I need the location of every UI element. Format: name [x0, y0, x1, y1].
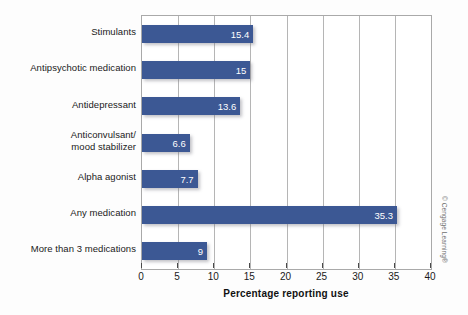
category-label-line: Antidepressant [0, 99, 136, 111]
x-tick-label: 15 [244, 271, 255, 282]
x-tick-mark [213, 263, 214, 268]
category-label: Anticonvulsant/mood stabilizer [0, 129, 136, 152]
category-label: Antidepressant [0, 99, 136, 111]
x-tick-mark [286, 263, 287, 268]
x-axis-title: Percentage reporting use [141, 288, 431, 299]
bar: 35.3 [142, 206, 397, 224]
category-label: Stimulants [0, 26, 136, 38]
bar-value-label: 35.3 [375, 209, 394, 220]
category-label: Alpha agonist [0, 171, 136, 183]
category-label-line: More than 3 medications [0, 243, 136, 255]
x-tick-label: 10 [208, 271, 219, 282]
bar: 15.4 [142, 25, 253, 43]
bar-series: 15.41513.66.67.735.39 [142, 16, 431, 269]
bar-value-label: 9 [198, 245, 203, 256]
category-label-line: Antipsychotic medication [0, 62, 136, 74]
bar-value-label: 7.7 [180, 173, 193, 184]
x-tick-label: 5 [174, 271, 180, 282]
category-label: More than 3 medications [0, 243, 136, 255]
x-tick-label: 0 [138, 271, 144, 282]
category-labels: StimulantsAntipsychotic medicationAntide… [0, 14, 136, 269]
x-tick-mark [394, 263, 395, 268]
bar-value-label: 15.4 [231, 29, 250, 40]
bar: 9 [142, 242, 207, 260]
x-tick-mark [358, 263, 359, 268]
bar: 7.7 [142, 170, 198, 188]
bar-value-label: 13.6 [218, 101, 237, 112]
x-tick-mark [249, 263, 250, 268]
category-label-line: Stimulants [0, 26, 136, 38]
bar-value-label: 6.6 [172, 137, 185, 148]
plot-area: 15.41513.66.67.735.39 [141, 15, 432, 270]
bar: 6.6 [142, 134, 190, 152]
category-label: Any medication [0, 207, 136, 219]
bar: 15 [142, 61, 250, 79]
x-tick-label: 35 [388, 271, 399, 282]
category-label-line: Anticonvulsant/ [0, 129, 136, 141]
x-tick-mark [141, 263, 142, 268]
category-label-line: mood stabilizer [0, 141, 136, 153]
x-tick-label: 20 [280, 271, 291, 282]
category-label-line: Alpha agonist [0, 171, 136, 183]
bar-value-label: 15 [236, 65, 247, 76]
copyright-credit: © Cengage Learning® [441, 196, 448, 263]
x-tick-label: 30 [352, 271, 363, 282]
x-tick-label: 40 [424, 271, 435, 282]
x-tick-mark [177, 263, 178, 268]
category-label: Antipsychotic medication [0, 62, 136, 74]
category-label-line: Any medication [0, 207, 136, 219]
chart-figure: StimulantsAntipsychotic medicationAntide… [0, 0, 468, 315]
x-tick-mark [430, 263, 431, 268]
bar: 13.6 [142, 97, 240, 115]
x-tick-label: 25 [316, 271, 327, 282]
x-tick-mark [322, 263, 323, 268]
